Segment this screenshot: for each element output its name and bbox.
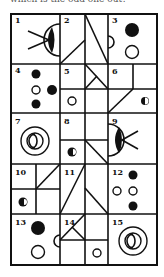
cell-label: 3	[112, 15, 118, 25]
cell-label: 10	[15, 167, 27, 177]
cell-label: 6	[112, 66, 118, 76]
half-circle-icon	[108, 36, 114, 48]
cell-13[interactable]: 13	[15, 217, 60, 259]
cell-label: 7	[15, 116, 21, 126]
cell-7[interactable]: 7	[15, 116, 49, 155]
cell-3[interactable]: 3	[108, 15, 139, 59]
cell-label: 5	[64, 66, 70, 76]
cell-6[interactable]: 6	[108, 64, 157, 113]
cell-label: 11	[64, 167, 75, 177]
cell-11[interactable]: 11	[60, 164, 108, 214]
cell-5[interactable]: 5	[60, 64, 108, 113]
cell-label: 8	[64, 116, 70, 126]
cell-10[interactable]: 10	[11, 164, 60, 214]
cell-14[interactable]: 14	[60, 214, 108, 265]
cell-label: 4	[15, 65, 21, 75]
cell-label: 2	[64, 15, 70, 25]
cell-label: 15	[112, 217, 123, 227]
cell-2[interactable]: 2	[60, 14, 108, 64]
cell-1[interactable]: 1	[15, 15, 60, 56]
open-circle-icon	[126, 46, 139, 59]
cell-4[interactable]: 4	[15, 65, 57, 109]
cell-label: 12	[112, 167, 123, 177]
cell-label: 13	[15, 217, 27, 227]
cell-15[interactable]: 15	[112, 217, 147, 255]
cell-12[interactable]: 12	[112, 167, 138, 211]
cell-8[interactable]: 8	[60, 113, 108, 164]
cell-label: 1	[15, 15, 21, 25]
filled-circle-icon	[125, 23, 139, 37]
puzzle-grid: 1 2 3 4 5 6	[0, 0, 164, 277]
cell-9[interactable]: 9	[108, 116, 138, 156]
